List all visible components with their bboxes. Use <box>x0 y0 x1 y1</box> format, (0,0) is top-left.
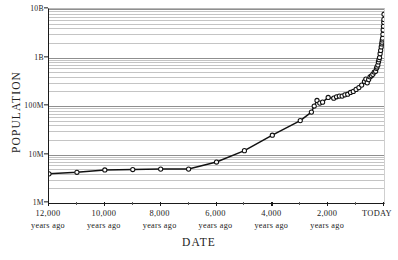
x-tick-mark-minor <box>76 202 77 205</box>
x-tick-mark <box>383 202 384 206</box>
y-tick-label: 10B <box>4 4 44 13</box>
data-series-layer <box>49 9 384 203</box>
x-tick-mark <box>160 202 161 206</box>
data-point-marker <box>320 100 324 104</box>
y-tick-mark <box>44 153 48 154</box>
x-tick-mark <box>48 202 49 206</box>
data-point-marker <box>309 110 313 114</box>
population-over-time-chart: POPULATION 1M10M100M1B10B 12,000years ag… <box>0 0 398 260</box>
x-tick-mark-minor <box>243 202 244 205</box>
data-point-marker <box>382 12 384 16</box>
x-axis-title: DATE <box>0 236 398 248</box>
data-point-marker <box>186 167 190 171</box>
data-point-marker <box>49 172 51 176</box>
y-tick-label: 1B <box>4 52 44 61</box>
y-tick-mark <box>44 7 48 8</box>
data-point-marker <box>103 168 107 172</box>
data-point-marker <box>131 167 135 171</box>
y-tick-label: 1M <box>4 198 44 207</box>
x-tick-mark <box>216 202 217 206</box>
x-tick-mark <box>327 202 328 206</box>
data-point-marker <box>270 133 274 137</box>
y-tick-mark <box>44 56 48 57</box>
population-markers <box>49 12 384 176</box>
y-tick-mark <box>44 104 48 105</box>
data-point-marker <box>382 17 384 21</box>
data-point-marker <box>242 149 246 153</box>
x-tick-mark-minor <box>132 202 133 205</box>
data-point-marker <box>214 160 218 164</box>
population-line <box>49 14 384 174</box>
data-point-marker <box>159 167 163 171</box>
data-point-marker <box>312 104 316 108</box>
data-point-marker <box>298 119 302 123</box>
y-tick-label: 100M <box>4 101 44 110</box>
data-point-marker <box>381 32 384 36</box>
plot-area <box>48 8 385 204</box>
x-tick-mark-minor <box>355 202 356 205</box>
x-tick-mark <box>104 202 105 206</box>
x-tick-mark-minor <box>188 202 189 205</box>
x-tick-label: TODAY <box>332 208 398 220</box>
data-point-marker <box>326 95 330 99</box>
y-tick-label: 10M <box>4 149 44 158</box>
x-tick-mark-minor <box>299 202 300 205</box>
x-tick-mark <box>271 202 272 206</box>
data-point-marker <box>75 170 79 174</box>
